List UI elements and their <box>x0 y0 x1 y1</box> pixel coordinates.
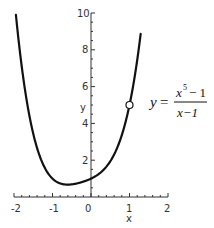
equation-numerator-base: x <box>175 85 182 100</box>
x-tick-label: 2 <box>164 203 170 214</box>
equation-label: y = x 5 − 1 x−1 <box>148 83 207 120</box>
y-tick-label: 6 <box>82 81 88 92</box>
equation-denominator: x−1 <box>176 105 198 120</box>
y-axis-ticks <box>91 13 95 188</box>
y-axis-label: y <box>80 102 86 113</box>
equation-equals: = <box>160 94 168 110</box>
equation-lhs: y <box>148 94 157 110</box>
equation-numerator-exponent: 5 <box>183 83 187 92</box>
x-axis: -2 -1 0 1 2 x <box>11 193 170 224</box>
x-axis-label: x <box>126 213 132 224</box>
function-plot: -2 -1 0 1 2 x 2 4 6 8 10 y y = x 5 − 1 x… <box>0 0 214 228</box>
y-tick-label: 2 <box>82 155 88 166</box>
y-axis: 2 4 6 8 10 y <box>77 8 95 197</box>
x-tick-label: 0 <box>85 203 91 214</box>
function-curve <box>16 15 141 185</box>
open-circle-hole <box>126 102 133 109</box>
x-tick-label: -2 <box>11 203 21 214</box>
y-tick-label: 10 <box>77 8 90 19</box>
y-tick-label: 4 <box>82 118 88 129</box>
x-tick-label: -1 <box>49 203 59 214</box>
equation-numerator-rest: − 1 <box>189 85 206 100</box>
y-tick-label: 8 <box>82 44 88 55</box>
